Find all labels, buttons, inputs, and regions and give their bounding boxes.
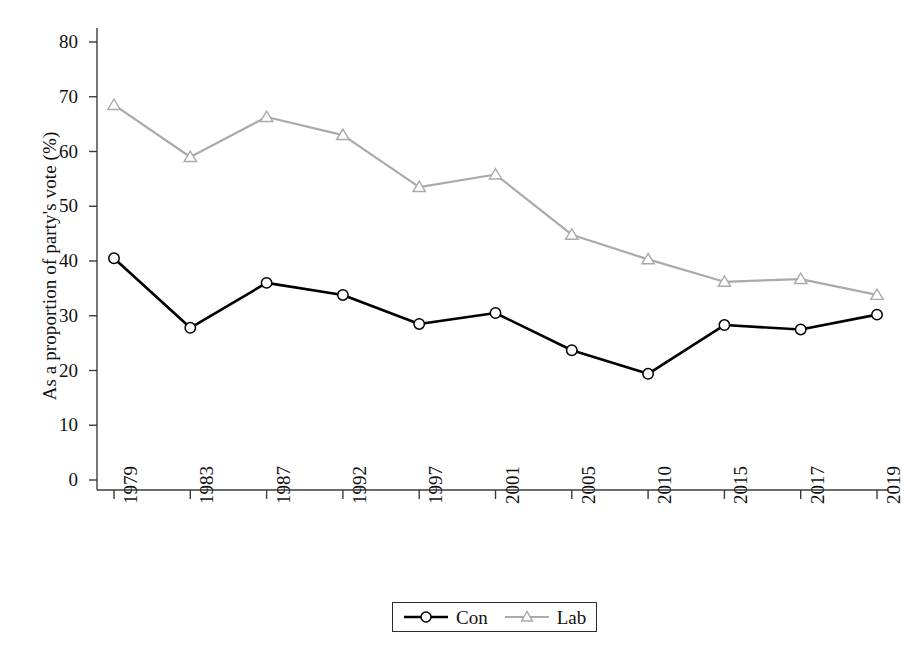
legend-label-lab: Lab: [557, 608, 587, 627]
legend-entry-lab[interactable]: Lab: [504, 608, 587, 627]
x-axis-tick-label: 1997: [426, 466, 445, 504]
x-axis-tick-label: 2015: [731, 466, 750, 504]
x-axis-tick-label: 2005: [579, 466, 598, 504]
line-chart: As a proportion of party's vote (%) 0102…: [0, 0, 912, 660]
legend-label-con: Con: [456, 608, 488, 627]
x-axis-tick-label: 2017: [808, 466, 827, 504]
x-axis-tick-label: 2010: [655, 466, 674, 504]
x-axis-tick-label: 1979: [121, 466, 140, 504]
x-axis-tick-label: 1983: [197, 466, 216, 504]
x-axis-tick-label: 1992: [350, 466, 369, 504]
x-axis-tick-labels: 1979198319871992199720012005201020152017…: [0, 0, 912, 660]
chart-legend: ConLab: [392, 602, 597, 632]
legend-key-lab-icon: [504, 609, 550, 625]
legend-key-con-icon: [403, 609, 449, 625]
x-axis-tick-label: 1987: [274, 466, 293, 504]
x-axis-tick-label: 2001: [503, 466, 522, 504]
legend-entry-con[interactable]: Con: [403, 608, 488, 627]
x-axis-tick-label: 2019: [884, 466, 903, 504]
